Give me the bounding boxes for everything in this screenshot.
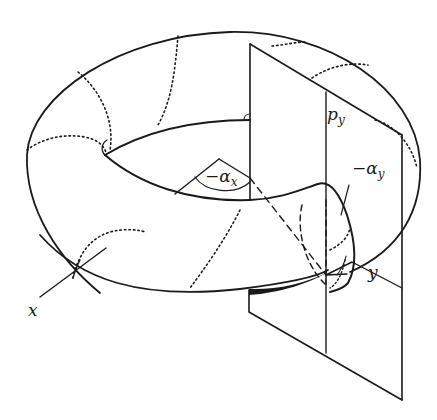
label-alpha-y: −αy — [352, 160, 385, 180]
label-p-y: py — [327, 106, 345, 126]
tube-section-solid — [318, 183, 354, 292]
torus-bottom-edge — [40, 235, 328, 292]
label-y: y — [368, 264, 378, 281]
tube-section-dashed — [300, 205, 325, 284]
label-alpha-x: −αx — [205, 168, 238, 188]
torus-diagram: py −αy −αx y x — [0, 0, 437, 420]
torus-hole-upper-edge — [105, 120, 250, 155]
label-x: x — [28, 302, 38, 319]
alpha-x-dashed-extension — [250, 178, 326, 275]
diagram-drawing — [0, 0, 437, 420]
